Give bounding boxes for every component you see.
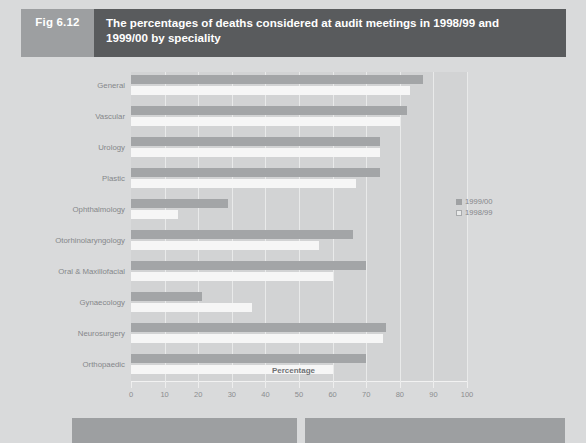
x-axis-tick-label: 30	[228, 390, 236, 399]
y-axis-category-label: Vascular	[95, 112, 125, 121]
bar-1999-00	[131, 323, 386, 332]
filled-square-icon	[456, 199, 462, 205]
x-axis-tick-label: 50	[295, 390, 303, 399]
bar-1999-00	[131, 75, 423, 84]
bar-1998-99	[131, 179, 356, 188]
x-axis-tick	[299, 382, 300, 388]
legend-label: 1998/99	[465, 207, 492, 218]
chart-legend: 1999/001998/99	[456, 196, 492, 218]
x-axis-title: Percentage	[21, 366, 566, 375]
bar-1999-00	[131, 137, 380, 146]
bar-1998-99	[131, 334, 383, 343]
x-axis-tick	[232, 382, 233, 388]
gridline	[433, 72, 434, 382]
figure-page: Fig 6.12 The percentages of deaths consi…	[0, 0, 586, 443]
x-axis-tick-label: 100	[461, 390, 474, 399]
bar-1999-00	[131, 106, 407, 115]
figure-title: The percentages of deaths considered at …	[94, 9, 566, 57]
bar-1999-00	[131, 261, 366, 270]
figure-title-line1: The percentages of deaths considered at …	[106, 15, 556, 30]
bar-1998-99	[131, 210, 178, 219]
x-axis-tick-label: 0	[129, 390, 133, 399]
x-axis-tick-label: 20	[194, 390, 202, 399]
y-axis-category-label: Neurosurgery	[78, 329, 125, 338]
bar-1998-99	[131, 241, 319, 250]
plot-area	[131, 72, 467, 382]
x-axis-tick-label: 60	[328, 390, 336, 399]
bar-1998-99	[131, 303, 252, 312]
footer-block-right	[305, 418, 565, 443]
bar-1999-00	[131, 292, 202, 301]
x-axis-tick-label: 10	[160, 390, 168, 399]
bar-1999-00	[131, 168, 380, 177]
y-axis-category-label: Ophthalmology	[73, 205, 125, 214]
x-axis-tick	[131, 382, 132, 388]
bar-1998-99	[131, 272, 333, 281]
x-axis-tick	[400, 382, 401, 388]
x-axis-tick	[333, 382, 334, 388]
y-axis-category-label: General	[97, 81, 125, 90]
figure-header: Fig 6.12 The percentages of deaths consi…	[21, 9, 566, 57]
bar-1998-99	[131, 148, 380, 157]
gridline	[400, 72, 401, 382]
x-axis-tick-label: 90	[429, 390, 437, 399]
x-axis-tick	[366, 382, 367, 388]
figure-title-line2: 1999/00 by speciality	[106, 30, 556, 45]
x-axis-tick	[467, 382, 468, 388]
legend-item: 1999/00	[456, 196, 492, 207]
bar-1999-00	[131, 354, 366, 363]
legend-item: 1998/99	[456, 207, 492, 218]
x-axis-tick	[165, 382, 166, 388]
x-axis-tick-label: 40	[261, 390, 269, 399]
gridline	[467, 72, 468, 382]
x-axis-tick-label: 70	[362, 390, 370, 399]
y-axis-category-label: Oral & Maxillofacial	[58, 267, 125, 276]
bar-1999-00	[131, 199, 228, 208]
y-axis-category-label: Plastic	[102, 174, 125, 183]
x-axis-tick	[433, 382, 434, 388]
bar-1998-99	[131, 86, 410, 95]
y-axis-category-label: Gynaecology	[79, 298, 125, 307]
y-axis-category-label: Otorhinolaryngology	[55, 236, 125, 245]
footer-block-left	[72, 418, 297, 443]
x-axis-tick	[265, 382, 266, 388]
bar-1999-00	[131, 230, 353, 239]
figure-number: Fig 6.12	[21, 9, 94, 57]
legend-label: 1999/00	[465, 196, 492, 207]
bar-1998-99	[131, 117, 400, 126]
y-axis-category-label: Urology	[98, 143, 125, 152]
chart-container: 0102030405060708090100 GeneralVascularUr…	[21, 62, 566, 392]
open-square-icon	[456, 210, 462, 216]
x-axis-tick-label: 80	[396, 390, 404, 399]
x-axis-tick	[198, 382, 199, 388]
